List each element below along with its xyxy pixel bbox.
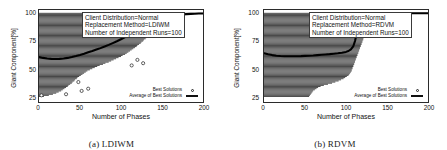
x-axis-label-a: Number of Phases — [38, 113, 204, 120]
x-tick-150: 150 — [157, 104, 168, 111]
two-panel-figure: Giant Component[%] 255075100 Client Dist… — [0, 0, 447, 150]
x-tick-200: 200 — [424, 104, 435, 111]
legend-item-average-a: Average of Best Solutions — [129, 93, 199, 99]
annotation-line-2-b: Replacement Method=RDVM — [312, 21, 409, 28]
y-tick-25: 25 — [29, 94, 36, 101]
y-tick-50: 50 — [29, 66, 36, 73]
y-tick-50: 50 — [252, 66, 259, 73]
annotation-line-1-b: Client Distribution=Normal — [312, 14, 409, 21]
y-tick-100: 100 — [25, 9, 36, 16]
y-tick-25: 25 — [252, 94, 259, 101]
x-axis-label-b: Number of Phases — [263, 113, 429, 120]
circle-marker-icon — [185, 89, 199, 92]
x-tick-0: 0 — [261, 104, 265, 111]
annotation-line-3-b: Number of Independent Runs=100 — [312, 29, 409, 36]
solid-line-icon — [410, 95, 424, 97]
annotation-line-3-a: Number of Independent Runs=100 — [85, 29, 182, 36]
circle-marker-icon — [410, 89, 424, 92]
x-tick-100: 100 — [341, 104, 352, 111]
x-tick-200: 200 — [199, 104, 210, 111]
x-tick-100: 100 — [116, 104, 127, 111]
solid-line-icon — [185, 95, 199, 97]
panel-ldiwm: Giant Component[%] 255075100 Client Dist… — [0, 0, 223, 150]
panel-caption-b: (b) RDVM — [223, 139, 447, 149]
y-tick-labels-a: 255075100 — [20, 9, 36, 103]
annotation-line-1-a: Client Distribution=Normal — [85, 14, 182, 21]
panel-caption-a: (a) LDIWM — [0, 139, 223, 149]
legend-b: Best Solutions Average of Best Solutions — [352, 86, 426, 100]
panel-rdvm: Giant Component[%] 255075100 Client Dist… — [223, 0, 447, 150]
legend-label-average-b: Average of Best Solutions — [354, 93, 407, 99]
legend-a: Best Solutions Average of Best Solutions — [127, 86, 201, 100]
plot-area-b: Client Distribution=Normal Replacement M… — [263, 9, 429, 103]
x-tick-50: 50 — [76, 104, 83, 111]
legend-label-average-a: Average of Best Solutions — [129, 93, 182, 99]
x-tick-50: 50 — [301, 104, 308, 111]
annotation-box-b: Client Distribution=Normal Replacement M… — [309, 12, 412, 38]
annotation-box-a: Client Distribution=Normal Replacement M… — [82, 12, 185, 38]
y-tick-75: 75 — [252, 37, 259, 44]
x-tick-0: 0 — [36, 104, 40, 111]
legend-item-average-b: Average of Best Solutions — [354, 93, 424, 99]
annotation-line-2-a: Replacement Method=LDIWM — [85, 21, 182, 28]
y-tick-75: 75 — [29, 37, 36, 44]
y-tick-labels-b: 255075100 — [243, 9, 259, 103]
y-tick-100: 100 — [248, 9, 259, 16]
x-tick-150: 150 — [382, 104, 393, 111]
plot-area-a: Client Distribution=Normal Replacement M… — [38, 9, 204, 103]
